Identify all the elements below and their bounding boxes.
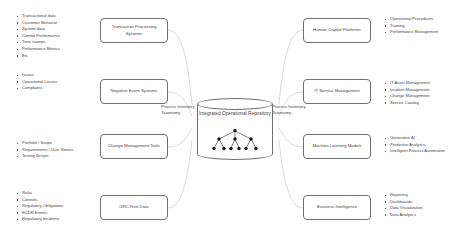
connector-right-3 (279, 128, 303, 147)
list-item: IT Asset Management (384, 80, 462, 87)
connector-right-1 (279, 30, 303, 104)
list-item: BCDR Events (16, 210, 82, 217)
list-item: Change Management (384, 93, 462, 100)
list-item: Intelligent Process Automation (384, 148, 462, 155)
list-item: Data Analytics (384, 212, 462, 219)
list-item: Training (384, 23, 462, 30)
node-label: Machine Learning Models (309, 143, 364, 149)
consumer-items-business-intelligence: Reporting Dashboards Data Visualization … (384, 192, 462, 218)
consumer-items-it-service-management: IT Asset Management Incident Management … (384, 80, 462, 106)
list-item: Predictive Analytics (384, 142, 462, 149)
list-item: Issues (16, 72, 82, 79)
list-item: Requirements / User Stories (16, 147, 82, 154)
list-item: Time stamps (16, 39, 82, 46)
node-it-service-management[interactable]: IT Service Management (303, 79, 371, 104)
list-item: Performance Management (384, 29, 462, 36)
list-item: Incident Management (384, 87, 462, 94)
cylinder-top-ellipse (197, 98, 273, 110)
node-label: Human Capital Platforms (310, 27, 364, 33)
node-negative-event-systems[interactable]: Negative Event Systems (100, 79, 168, 104)
connector-left-4 (168, 140, 192, 208)
list-item: Portfolio / Scope (16, 140, 82, 147)
list-item: Risks (16, 190, 82, 197)
node-label: Negative Event Systems (108, 88, 161, 94)
node-label: GRC Risk Data (116, 204, 151, 210)
node-machine-learning-models[interactable]: Machine Learning Models (303, 134, 371, 159)
list-item: Operational Procedures (384, 16, 462, 23)
node-label: Business Intelligence (314, 204, 360, 210)
connector-left-3 (168, 128, 192, 147)
list-item: Transactional data (16, 13, 82, 20)
list-item: Service Catalog (384, 100, 462, 107)
list-item: Reporting (384, 192, 462, 199)
node-business-intelligence[interactable]: Business Intelligence (303, 195, 371, 220)
integrated-operational-repository-cylinder[interactable]: Integrated Operational Repository (197, 98, 273, 160)
list-item: Control Performance (16, 33, 82, 40)
connector-left-1 (168, 30, 192, 104)
node-grc-risk-data[interactable]: GRC Risk Data (100, 195, 168, 220)
node-label: Change Management Tools (105, 143, 163, 149)
list-item: Regulatory Obligations (16, 203, 82, 210)
label-process-inventory-taxonomy-right: Process Inventory Taxonomy (272, 104, 306, 116)
consumer-items-machine-learning-models: Generative AI Predictive Analytics Intel… (384, 135, 462, 155)
list-item: Complaints (16, 85, 82, 92)
source-items-grc-risk-data: Risks Controls Regulatory Obligations BC… (16, 190, 82, 223)
node-change-management-tools[interactable]: Change Management Tools (100, 134, 168, 159)
list-item: Customer Behavior (16, 20, 82, 27)
list-item: Testing Scripts (16, 153, 82, 160)
list-item: Operational Losses (16, 79, 82, 86)
node-label: Transaction Processing Systems (101, 24, 167, 36)
list-item: System data (16, 26, 82, 33)
list-item: Etc. (16, 53, 82, 60)
label-process-inventory-taxonomy-left: Process Inventory Taxonomy (161, 104, 195, 116)
list-item: Controls (16, 197, 82, 204)
source-items-change-management-tools: Portfolio / Scope Requirements / User St… (16, 140, 82, 160)
connector-right-4 (279, 140, 303, 208)
source-items-transaction-processing-systems: Transactional data Customer Behavior Sys… (16, 13, 82, 59)
node-transaction-processing-systems[interactable]: Transaction Processing Systems (100, 18, 168, 43)
repository-title: Integrated Operational Repository (197, 111, 273, 118)
node-human-capital-platforms[interactable]: Human Capital Platforms (303, 18, 371, 43)
node-label: IT Service Management (311, 88, 363, 94)
source-items-negative-event-systems: Issues Operational Losses Complaints (16, 72, 82, 92)
consumer-items-human-capital-platforms: Operational Procedures Training Performa… (384, 16, 462, 36)
list-item: Generative AI (384, 135, 462, 142)
list-item: Performance Metrics (16, 46, 82, 53)
hierarchy-tree-icon (207, 127, 263, 155)
list-item: Regulatory Incidents (16, 216, 82, 223)
diagram-canvas: Transactional data Customer Behavior Sys… (0, 0, 471, 245)
list-item: Data Visualization (384, 205, 462, 212)
list-item: Dashboards (384, 199, 462, 206)
